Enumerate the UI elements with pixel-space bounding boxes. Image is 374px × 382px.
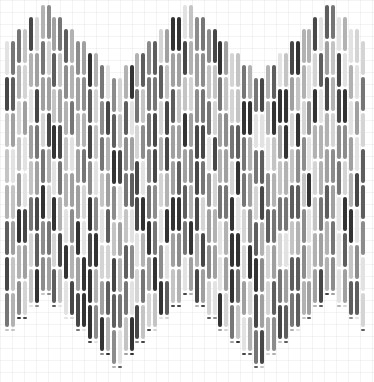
bar-segment xyxy=(106,317,110,351)
bar-segment xyxy=(296,149,300,183)
bar-segment xyxy=(153,41,157,75)
bar-segment xyxy=(88,125,92,159)
bar-segment xyxy=(337,89,341,123)
bar-segment xyxy=(58,161,62,195)
bar-segment xyxy=(17,173,21,207)
bar-segment xyxy=(82,41,86,75)
bar-segment xyxy=(319,197,323,231)
bar-segment xyxy=(313,305,317,307)
bar-segment xyxy=(171,305,175,307)
bar-segment xyxy=(70,173,74,207)
bar-segment xyxy=(230,305,234,339)
bar-segment xyxy=(189,149,193,183)
bar-segment xyxy=(195,197,199,231)
bar-segment xyxy=(355,173,359,207)
bar-segment xyxy=(218,41,222,75)
bar-segment xyxy=(313,53,317,87)
bar-segment xyxy=(135,197,139,231)
bar-segment xyxy=(224,113,228,147)
bar-segment xyxy=(52,161,56,195)
bar-segment xyxy=(11,293,15,327)
bar-column xyxy=(47,5,51,297)
bar-segment xyxy=(337,17,341,51)
bar-segment xyxy=(272,65,276,99)
bar-segment xyxy=(213,29,217,63)
bar-segment xyxy=(302,245,306,279)
bar-segment xyxy=(189,257,193,291)
bar-segment xyxy=(159,281,163,315)
bar-column xyxy=(230,53,234,345)
bar-segment xyxy=(195,89,199,123)
bar-segment xyxy=(106,245,110,279)
bar-segment xyxy=(29,269,33,303)
bar-segment xyxy=(153,293,157,327)
bar-segment xyxy=(135,341,139,343)
bar-segment xyxy=(23,245,27,279)
bar-segment xyxy=(35,161,39,195)
bar-segment xyxy=(242,317,246,351)
bar-segment xyxy=(248,317,252,351)
bar-segment xyxy=(183,113,187,147)
bar-segment xyxy=(130,317,134,351)
bar-segment xyxy=(260,330,264,364)
bar-segment xyxy=(165,173,169,207)
bar-segment xyxy=(112,150,116,184)
bar-segment xyxy=(94,341,98,343)
bar-segment xyxy=(23,101,27,135)
bar-segment xyxy=(343,161,347,195)
bar-segment xyxy=(207,245,211,279)
bar-segment xyxy=(361,185,365,219)
bar-segment xyxy=(319,305,323,307)
bar-segment xyxy=(165,101,169,135)
bar-segment xyxy=(266,137,270,171)
bar-segment xyxy=(64,173,68,207)
bar-segment xyxy=(337,125,341,159)
bar-segment xyxy=(278,125,282,159)
bar-segment xyxy=(331,113,335,147)
bar-segment xyxy=(195,305,199,307)
bar-segment xyxy=(307,137,311,171)
bar-segment xyxy=(183,149,187,183)
bar-segment xyxy=(147,257,151,291)
bar-segment xyxy=(124,317,128,351)
bar-segment xyxy=(94,269,98,303)
bar-segment xyxy=(331,77,335,111)
bar-column xyxy=(94,53,98,345)
bar-segment xyxy=(272,353,276,355)
bar-segment xyxy=(76,293,80,327)
bar-segment xyxy=(218,149,222,183)
bar-segment xyxy=(76,185,80,219)
bar-segment xyxy=(94,197,98,231)
bar-segment xyxy=(201,305,205,307)
bar-segment xyxy=(248,281,252,315)
bar-column xyxy=(254,78,258,370)
bar-segment xyxy=(207,101,211,135)
bar-segment xyxy=(195,233,199,267)
bar-segment xyxy=(153,149,157,183)
bar-segment xyxy=(195,161,199,195)
bar-column xyxy=(58,17,62,309)
bar-segment xyxy=(94,233,98,267)
bar-segment xyxy=(343,305,347,307)
bar-segment xyxy=(106,353,110,355)
bar-segment xyxy=(177,269,181,303)
bar-segment xyxy=(319,17,323,51)
bar-segment xyxy=(100,65,104,99)
bar-segment xyxy=(141,305,145,339)
bar-segment xyxy=(278,161,282,195)
bar-segment xyxy=(17,29,21,63)
bar-segment xyxy=(230,341,234,343)
bar-segment xyxy=(165,281,169,315)
bar-segment xyxy=(130,209,134,243)
bar-segment xyxy=(313,197,317,231)
bar-segment xyxy=(230,125,234,159)
bar-segment xyxy=(124,353,128,355)
bar-segment xyxy=(130,65,134,99)
bar-segment xyxy=(82,293,86,327)
bar-segment xyxy=(236,53,240,87)
bar-segment xyxy=(260,150,264,184)
bar-segment xyxy=(307,29,311,63)
bar-segment xyxy=(230,89,234,123)
bar-column xyxy=(266,65,270,357)
bar-segment xyxy=(213,173,217,207)
